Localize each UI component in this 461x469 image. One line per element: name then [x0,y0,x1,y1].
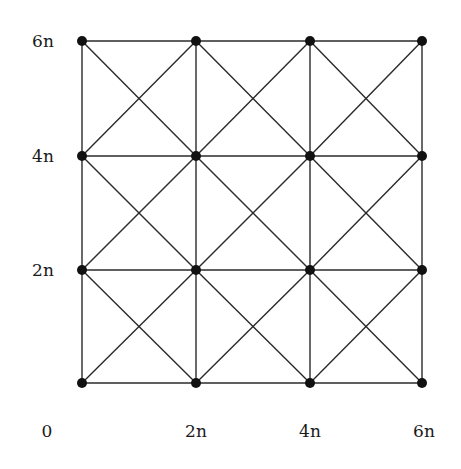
edges [82,41,422,383]
node-dot [305,36,315,46]
node-dot [417,36,427,46]
grid-diagram: 0 2n 4n 6n 6n 4n 2n [0,0,461,469]
node-dot [77,265,87,275]
x-label-6n: 6n [413,421,435,441]
node-dot [77,36,87,46]
x-label-4n: 4n [299,421,321,441]
y-label-6n: 6n [32,31,54,51]
node-dot [417,378,427,388]
node-dot [191,265,201,275]
node-dot [191,151,201,161]
y-label-4n: 4n [32,146,54,166]
node-dot [417,151,427,161]
node-dot [305,378,315,388]
node-dot [305,151,315,161]
axis-labels: 0 2n 4n 6n 6n 4n 2n [32,31,435,441]
node-dot [191,36,201,46]
node-dot [305,265,315,275]
node-dot [417,265,427,275]
node-dot [77,151,87,161]
x-label-2n: 2n [185,421,207,441]
y-label-2n: 2n [32,260,54,280]
x-label-0: 0 [42,421,53,441]
node-dot [77,378,87,388]
node-dot [191,378,201,388]
